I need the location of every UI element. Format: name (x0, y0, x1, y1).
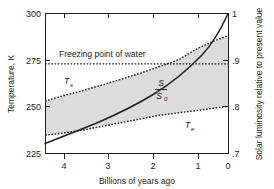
frac-denominator: S (156, 91, 162, 101)
x-tick-label-2: 2 (150, 161, 155, 171)
freezing-point-label: Freezing point of water (59, 49, 146, 59)
ts-label: T s (64, 76, 73, 88)
x-axis-title: Billions of years ago (99, 176, 175, 186)
te-label: T e (185, 120, 195, 132)
x-axis-ticks (64, 154, 198, 159)
x-tick-label-1: 3 (105, 161, 110, 171)
x-axis-tick-labels: 4 3 2 1 0 (61, 161, 230, 171)
y2-axis-title: Solar luminosity relative to present val… (254, 7, 264, 160)
y-tick-label-2: 250 (26, 102, 41, 112)
frac-numerator: S (158, 78, 164, 88)
y-axis-tick-labels: 300 275 250 225 (26, 9, 41, 159)
x-tick-label-4: 0 (225, 161, 230, 171)
x-tick-label-3: 1 (195, 161, 200, 171)
ts-subscript: s (70, 82, 73, 88)
y2-tick-label-1: .9 (232, 56, 240, 66)
y-tick-label-1: 275 (26, 56, 41, 66)
y2-tick-label-0: 1 (232, 9, 237, 19)
y-axis-title: Temperature, K (6, 55, 16, 113)
y2-tick-label-2: .8 (232, 102, 240, 112)
y2-tick-label-3: .7 (232, 149, 240, 159)
x-tick-label-0: 4 (61, 161, 66, 171)
y-tick-label-3: 225 (26, 149, 41, 159)
y2-axis-tick-labels: 1 .9 .8 .7 (232, 9, 240, 159)
solar-luminosity-temperature-chart: 300 275 250 225 1 .9 .8 .7 (0, 0, 274, 189)
y-tick-label-0: 300 (26, 9, 41, 19)
x-axis-top-ticks (64, 14, 198, 19)
te-subscript: e (191, 126, 195, 132)
chart-svg: 300 275 250 225 1 .9 .8 .7 (0, 0, 274, 189)
